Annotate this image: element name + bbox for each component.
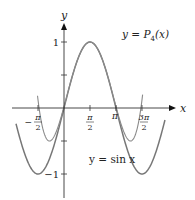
x-axis-label: x (180, 102, 187, 115)
y-tick-label: 1 (53, 37, 59, 48)
y-tick-label: −1 (44, 169, 59, 180)
y-axis-label: y (60, 9, 68, 22)
annotation-p4: y = P4(x) (121, 28, 169, 43)
x-tick-label-sign: − (24, 117, 32, 127)
chart: π2−π2π3π21−1 x y y = P4(x) y = sin x (0, 0, 195, 200)
annotation-sin: y = sin x (88, 153, 135, 165)
x-tick-label-numerator: π (86, 113, 93, 122)
x-tick-label-denominator: 2 (35, 123, 40, 132)
annotation-p4-suffix: (x) (155, 28, 169, 40)
y-axis-arrow-icon (61, 23, 67, 30)
x-tick-label: π (111, 111, 119, 121)
x-tick-label-denominator: 2 (141, 123, 146, 132)
annotation-p4-prefix: y = (121, 28, 143, 40)
axes-layer (12, 23, 176, 198)
x-tick-label-numerator: 3π (139, 113, 150, 122)
x-axis-arrow-icon (169, 105, 176, 111)
x-tick-label-denominator: 2 (87, 123, 92, 132)
x-tick-label-numerator: π (34, 113, 41, 122)
